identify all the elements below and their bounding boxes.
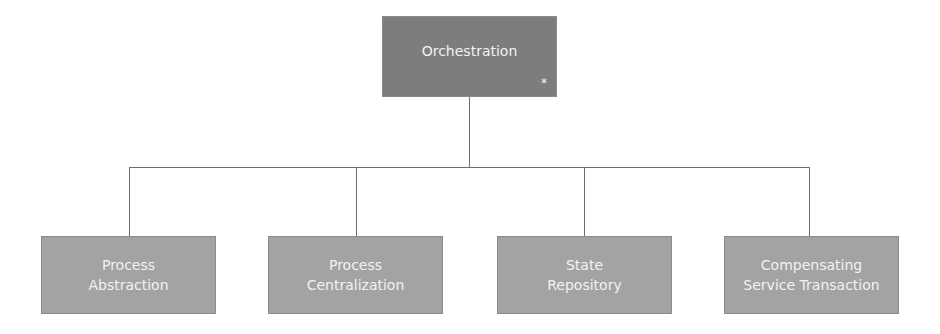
- child-node-label: State Repository: [547, 255, 621, 295]
- hierarchy-diagram: Orchestration * Process Abstraction Proc…: [0, 0, 940, 334]
- child-node-state-repository: State Repository: [497, 236, 672, 314]
- child-node-label: Process Centralization: [307, 255, 405, 295]
- child-4-connector: [809, 167, 810, 236]
- child-node-label: Compensating Service Transaction: [743, 255, 879, 295]
- child-3-connector: [584, 167, 585, 236]
- root-node-label: Orchestration: [422, 43, 518, 59]
- horizontal-bus-connector: [129, 167, 810, 168]
- child-node-compensating-service-transaction: Compensating Service Transaction: [724, 236, 899, 314]
- root-stem-connector: [469, 97, 470, 168]
- asterisk-marker-icon: *: [541, 76, 547, 90]
- child-node-process-centralization: Process Centralization: [268, 236, 443, 314]
- child-node-process-abstraction: Process Abstraction: [41, 236, 216, 314]
- child-2-connector: [356, 167, 357, 236]
- child-1-connector: [129, 167, 130, 236]
- root-node-orchestration: Orchestration *: [382, 16, 557, 97]
- child-node-label: Process Abstraction: [88, 255, 168, 295]
